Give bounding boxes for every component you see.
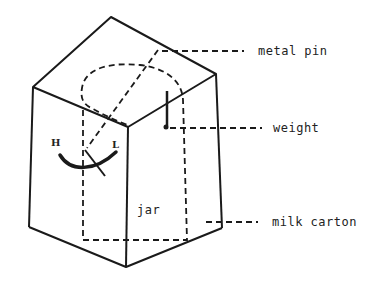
jar-label: jar xyxy=(137,204,160,216)
jar-outline xyxy=(82,64,187,240)
metal-pin-label: metal pin xyxy=(258,45,328,57)
carton-front-edge xyxy=(126,127,128,267)
carton-left-edge xyxy=(29,87,33,227)
weight-icon xyxy=(164,125,169,130)
high-label: H xyxy=(51,138,61,148)
low-label: L xyxy=(112,140,120,150)
carton-top-face xyxy=(33,17,216,127)
carton-right-edge xyxy=(216,74,222,228)
milk-carton-label: milk carton xyxy=(272,216,357,228)
weight-label: weight xyxy=(273,122,319,134)
